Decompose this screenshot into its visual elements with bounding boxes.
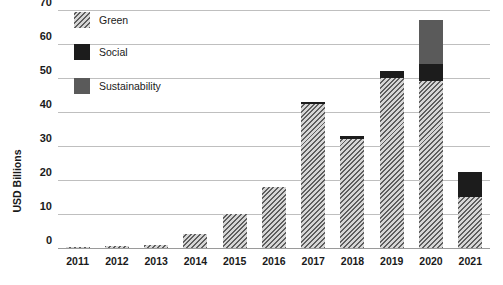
bar-stack-2021[interactable] (458, 172, 482, 249)
x-tick-2017: 2017 (294, 254, 333, 274)
x-tick-2020: 2020 (411, 254, 450, 274)
bar-segment-green-2011[interactable] (66, 247, 90, 248)
bar-group-2020[interactable] (411, 10, 450, 248)
bar-stack-2018[interactable] (340, 136, 364, 248)
bar-segment-green-2018[interactable] (340, 139, 364, 248)
y-tick-60: 60 (28, 31, 52, 42)
x-tick-2016: 2016 (254, 254, 293, 274)
y-tick-50: 50 (28, 65, 52, 76)
x-tick-2015: 2015 (215, 254, 254, 274)
bar-segment-social-2019[interactable] (380, 71, 404, 78)
bar-segment-green-2014[interactable] (183, 234, 207, 248)
y-axis-tick-labels: 010203040506070 (22, 10, 52, 248)
bar-segment-green-2015[interactable] (223, 214, 247, 248)
x-axis-tick-labels: 2011201220132014201520162017201820192020… (58, 254, 490, 274)
y-tick-0: 0 (28, 235, 52, 246)
y-tick-30: 30 (28, 133, 52, 144)
y-tick-20: 20 (28, 167, 52, 178)
x-tick-2011: 2011 (58, 254, 97, 274)
bar-group-2017[interactable] (294, 10, 333, 248)
legend-item-social[interactable]: Social (74, 44, 128, 60)
bar-stack-2019[interactable] (380, 71, 404, 248)
bar-group-2019[interactable] (372, 10, 411, 248)
x-tick-2018: 2018 (333, 254, 372, 274)
bar-group-2014[interactable] (176, 10, 215, 248)
legend-item-green[interactable]: Green (74, 12, 128, 28)
y-tick-70: 70 (28, 0, 52, 8)
bar-segment-green-2013[interactable] (144, 245, 168, 248)
bar-segment-green-2021[interactable] (458, 197, 482, 248)
x-tick-2019: 2019 (372, 254, 411, 274)
y-tick-40: 40 (28, 99, 52, 110)
bar-segment-sustainability-2020[interactable] (419, 20, 443, 64)
bar-stack-2015[interactable] (223, 214, 247, 248)
bar-stack-2013[interactable] (144, 245, 168, 248)
bar-segment-green-2019[interactable] (380, 78, 404, 248)
bar-group-2013[interactable] (137, 10, 176, 248)
gridline-0 (58, 248, 490, 249)
green-hatch-swatch (74, 12, 90, 28)
bar-group-2015[interactable] (215, 10, 254, 248)
bar-stack-2011[interactable] (66, 247, 90, 248)
bar-stack-2017[interactable] (301, 102, 325, 248)
x-tick-2014: 2014 (176, 254, 215, 274)
legend-label-green: Green (99, 14, 128, 26)
x-tick-2013: 2013 (137, 254, 176, 274)
bar-segment-green-2016[interactable] (262, 187, 286, 248)
bar-stack-2020[interactable] (419, 20, 443, 248)
bar-segment-green-2020[interactable] (419, 81, 443, 248)
legend-label-social: Social (99, 46, 128, 58)
legend-item-sustainability[interactable]: Sustainability (74, 78, 161, 94)
bar-segment-social-2020[interactable] (419, 64, 443, 81)
bar-chart: USD Billions 010203040506070 20112012201… (0, 0, 503, 285)
bar-stack-2014[interactable] (183, 234, 207, 248)
bar-group-2018[interactable] (333, 10, 372, 248)
bar-group-2021[interactable] (451, 10, 490, 248)
x-tick-2012: 2012 (97, 254, 136, 274)
legend-label-sustainability: Sustainability (99, 80, 161, 92)
bar-segment-social-2021[interactable] (458, 172, 482, 198)
social-solid-swatch (74, 44, 90, 60)
bar-segment-green-2012[interactable] (105, 246, 129, 248)
y-tick-10: 10 (28, 201, 52, 212)
bar-segment-green-2017[interactable] (301, 104, 325, 249)
bar-group-2016[interactable] (254, 10, 293, 248)
sustainability-solid-swatch (74, 78, 90, 94)
bar-stack-2016[interactable] (262, 187, 286, 248)
bar-stack-2012[interactable] (105, 246, 129, 248)
x-tick-2021: 2021 (451, 254, 490, 274)
